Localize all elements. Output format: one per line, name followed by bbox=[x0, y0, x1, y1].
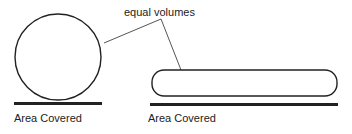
leader-line-right bbox=[161, 19, 181, 70]
annotation-label: equal volumes bbox=[124, 6, 195, 18]
right-area-label: Area Covered bbox=[148, 112, 216, 124]
left-area-label: Area Covered bbox=[14, 112, 82, 124]
right-area-bar bbox=[150, 103, 338, 106]
sphere-shape bbox=[15, 14, 101, 100]
left-area-bar bbox=[14, 102, 102, 105]
leader-line-left bbox=[104, 19, 161, 43]
flattened-shape bbox=[152, 70, 337, 96]
